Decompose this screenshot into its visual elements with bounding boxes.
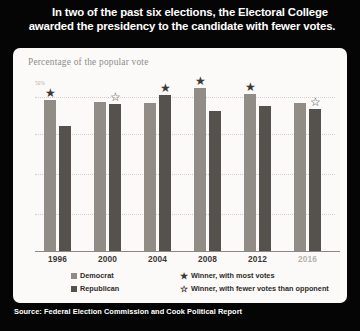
source-note: Source: Federal Election Commission and … [14, 307, 242, 316]
legend-item-winner-fewer-votes: ☆Winner, with fewer votes than opponent [180, 284, 329, 294]
bar-2008-republican [209, 111, 221, 251]
page-title: In two of the past six elections, the El… [12, 5, 352, 33]
star-filled-icon-2012: ★ [243, 81, 257, 93]
bar-group-2016: ☆ [294, 82, 321, 251]
poster-background: In two of the past six elections, the El… [0, 0, 360, 331]
bar-group-2004: ★ [144, 82, 171, 251]
legend-item-winner-most-votes: ★Winner, with most votes [180, 271, 274, 281]
star-hollow-icon: ☆ [180, 284, 189, 294]
chart-card: Percentage of the popular vote 50% ★☆★★★… [13, 48, 347, 303]
star-filled-icon-2004: ★ [158, 82, 172, 94]
plot-area: ★☆★★★☆ [35, 82, 335, 251]
bar-1996-democrat [44, 100, 56, 251]
bar-group-2000: ☆ [94, 82, 121, 251]
bar-2004-republican [159, 95, 171, 251]
x-axis-label-2012: 2012 [235, 254, 281, 264]
x-axis-label-2004: 2004 [135, 254, 181, 264]
x-axis-label-1996: 1996 [35, 254, 81, 264]
bar-group-1996: ★ [44, 82, 71, 251]
legend-item-republican: Republican [71, 284, 119, 293]
gridline-25 [35, 174, 335, 175]
legend-swatch-republican [71, 286, 77, 292]
chart-legend: Democrat Republican ★Winner, with most v… [13, 270, 347, 300]
gridline-38 [35, 134, 335, 135]
bar-2012-republican [259, 106, 271, 251]
chart-subtitle: Percentage of the popular vote [28, 57, 149, 67]
bar-group-2012: ★ [244, 82, 271, 251]
headline-line-2: awarded the presidency to the candidate … [12, 19, 352, 33]
bar-2000-republican [109, 104, 121, 251]
legend-label-democrat: Democrat [80, 271, 114, 280]
star-filled-icon-2008: ★ [193, 75, 207, 87]
bar-2008-democrat [194, 88, 206, 251]
star-filled-icon-1996: ★ [43, 87, 57, 99]
x-axis-label-2000: 2000 [85, 254, 131, 264]
bar-1996-republican [59, 126, 71, 251]
star-hollow-icon-2016: ☆ [308, 96, 322, 108]
gridline-12 [35, 214, 335, 215]
bar-group-2008: ★ [194, 82, 221, 251]
bar-2016-republican [309, 109, 321, 251]
x-axis-line [35, 251, 340, 252]
x-axis-label-2016: 2016 [285, 254, 331, 264]
legend-label-republican: Republican [80, 284, 119, 293]
bar-2012-democrat [244, 94, 256, 251]
legend-item-democrat: Democrat [71, 271, 114, 280]
bar-2016-democrat [294, 103, 306, 251]
legend-label-winner-most-votes: Winner, with most votes [191, 271, 274, 280]
star-filled-icon: ★ [180, 271, 189, 281]
gridline-50 [35, 97, 335, 98]
legend-swatch-democrat [71, 273, 77, 279]
headline-line-1: In two of the past six elections, the El… [12, 5, 352, 19]
legend-label-winner-fewer-votes: Winner, with fewer votes than opponent [191, 284, 329, 293]
bar-2000-democrat [94, 102, 106, 251]
x-axis-label-2008: 2008 [185, 254, 231, 264]
star-hollow-icon-2000: ☆ [108, 91, 122, 103]
bar-2004-democrat [144, 103, 156, 251]
